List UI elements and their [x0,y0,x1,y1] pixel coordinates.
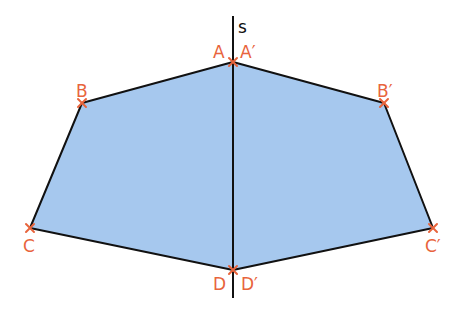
label-b-prime: B′ [377,81,393,101]
symmetry-diagram: s A A′ B B′ C C′ D D′ [0,0,467,312]
label-c: C [23,236,35,256]
label-a-prime: A′ [240,42,256,62]
label-d: D [213,274,226,294]
label-c-prime: C′ [425,236,441,256]
axis-label-s: s [238,17,247,37]
label-b: B [76,81,88,101]
label-a: A [213,42,225,62]
quadrilateral-abcd-prime [233,62,433,270]
quadrilateral-abcd [30,62,233,270]
label-d-prime: D′ [241,274,258,294]
